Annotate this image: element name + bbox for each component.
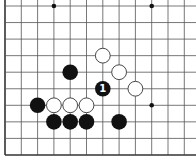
black-stone[interactable]: 1 <box>95 81 111 97</box>
go-board[interactable]: 1 <box>0 0 196 163</box>
board-grid <box>5 0 196 155</box>
white-stone[interactable] <box>128 81 143 96</box>
white-stone[interactable] <box>112 65 127 80</box>
white-stone[interactable] <box>63 98 78 113</box>
star-point-icon <box>149 103 154 108</box>
star-point-icon <box>149 4 154 9</box>
black-stone[interactable] <box>30 98 46 114</box>
black-stone[interactable] <box>46 114 62 130</box>
white-stone[interactable] <box>47 98 62 113</box>
black-stone[interactable] <box>79 114 95 130</box>
star-point-icon <box>52 4 57 9</box>
black-stone[interactable] <box>62 64 78 80</box>
white-stone[interactable] <box>95 48 110 63</box>
black-stone[interactable] <box>111 114 127 130</box>
move-number-label: 1 <box>99 83 106 94</box>
black-stone[interactable] <box>62 114 78 130</box>
white-stone[interactable] <box>79 98 94 113</box>
